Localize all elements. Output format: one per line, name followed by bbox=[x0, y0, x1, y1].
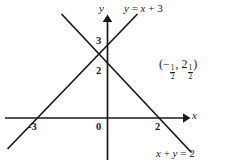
coord-frac1-denominator: 2 bbox=[170, 72, 175, 81]
coord-frac1-numerator: 1 bbox=[170, 64, 175, 72]
x-tick-label-negative-3: -3 bbox=[28, 122, 37, 133]
y-tick-label-3: 3 bbox=[96, 36, 101, 47]
coord-close-paren: ) bbox=[193, 57, 197, 71]
coord-separator: , 2 bbox=[176, 57, 188, 71]
x-tick-label-2: 2 bbox=[155, 122, 160, 133]
coord-fraction-one-half-first: 12 bbox=[170, 64, 175, 80]
equation-label-line1-suffix: + 3 bbox=[146, 2, 163, 14]
y-tick-label-2: 2 bbox=[96, 66, 101, 77]
coord-frac2-denominator: 2 bbox=[188, 72, 193, 81]
line-x-plus-y-equals-2 bbox=[62, 15, 191, 153]
y-axis bbox=[103, 15, 113, 161]
x-axis-label: x bbox=[192, 110, 197, 121]
origin-label: 0 bbox=[96, 122, 101, 133]
equation-label-line1-equals: = bbox=[129, 2, 141, 14]
intersection-coordinate-label: (−12, 212) bbox=[159, 58, 197, 81]
y-axis-label: y bbox=[99, 3, 104, 14]
equation-label-line1: y = x + 3 bbox=[124, 3, 163, 14]
graph-canvas bbox=[0, 0, 225, 166]
line-graph-figure: y x 3 2 -3 0 2 y = x + 3 x + y = 2 (−12,… bbox=[0, 0, 225, 166]
equation-label-line2-plus: + bbox=[161, 147, 173, 159]
equation-label-line2-suffix: = 2 bbox=[178, 147, 195, 159]
equation-label-line2: x + y = 2 bbox=[156, 148, 195, 159]
coord-open-paren: (− bbox=[159, 57, 170, 71]
